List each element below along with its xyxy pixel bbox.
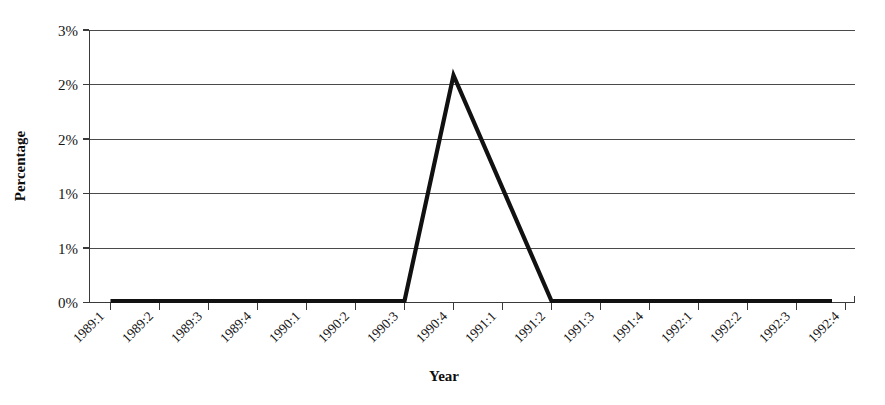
y-tick-label-4: 1% xyxy=(58,241,78,257)
x-tick-label-10: 1991:3 xyxy=(560,308,597,345)
x-tick-label-13: 1992:2 xyxy=(707,309,744,346)
axes xyxy=(89,30,855,303)
y-tick-label-2: 2% xyxy=(58,132,78,148)
x-tick-label-14: 1992:3 xyxy=(756,308,793,345)
x-tick-label-3: 1989:4 xyxy=(217,308,254,345)
line-chart: 3% 2% 2% 1% 1% 0% xyxy=(0,0,885,405)
x-tick-label-2: 1989:3 xyxy=(168,308,205,345)
x-tickmarks xyxy=(111,303,846,310)
chart-container: 3% 2% 2% 1% 1% 0% xyxy=(0,0,885,405)
y-tick-label-0: 3% xyxy=(58,23,78,39)
x-tick-label-4: 1990:1 xyxy=(266,309,303,346)
series-percentage-line xyxy=(111,75,833,301)
y-tick-label-3: 1% xyxy=(58,186,78,202)
x-tick-label-12: 1992:1 xyxy=(658,309,695,346)
x-axis-title: Year xyxy=(429,368,459,384)
x-tick-label-9: 1991:2 xyxy=(511,309,548,346)
x-tick-label-15: 1992:4 xyxy=(805,308,842,345)
y-axis-title: Percentage xyxy=(12,130,28,201)
gridlines xyxy=(89,30,855,303)
x-tick-label-7: 1990:4 xyxy=(413,308,450,345)
x-tick-label-1: 1989:2 xyxy=(119,309,156,346)
x-tick-label-5: 1990:2 xyxy=(315,309,352,346)
data-series-group xyxy=(111,75,833,301)
x-tick-label-6: 1990:3 xyxy=(364,308,401,345)
y-tick-label-5: 0% xyxy=(58,295,78,311)
x-tick-label-11: 1991:4 xyxy=(609,308,646,345)
x-tick-label-8: 1991:1 xyxy=(462,309,499,346)
y-tickmarks xyxy=(83,30,89,303)
y-tick-label-1: 2% xyxy=(58,77,78,93)
y-tick-labels: 3% 2% 2% 1% 1% 0% xyxy=(58,23,78,312)
x-tick-labels: 1989:1 1989:2 1989:3 1989:4 1990:1 1990:… xyxy=(70,308,842,345)
x-tick-label-0: 1989:1 xyxy=(70,309,107,346)
